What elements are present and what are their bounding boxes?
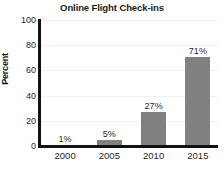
x-tick-label-2005: 2005 bbox=[99, 150, 120, 161]
bar-value-2000: 1% bbox=[59, 134, 72, 144]
y-tick-label: 0 bbox=[2, 141, 36, 151]
y-tick-label: 100 bbox=[2, 15, 36, 25]
y-axis-line bbox=[38, 19, 41, 148]
x-tick-label-2015: 2015 bbox=[187, 150, 208, 161]
y-axis-tick-labels: 0 20 40 60 80 100 bbox=[0, 0, 36, 172]
y-tick-label: 60 bbox=[2, 65, 36, 75]
y-tick-label: 40 bbox=[2, 91, 36, 101]
x-tick-label-2010: 2010 bbox=[143, 150, 164, 161]
plot-area: 1% 5% 27% 71% bbox=[41, 20, 218, 146]
bar-2010[interactable] bbox=[141, 112, 166, 146]
bar-value-2015: 71% bbox=[189, 46, 207, 56]
bar-2015[interactable] bbox=[185, 57, 210, 146]
x-axis-line bbox=[38, 145, 218, 148]
bar-chart: Online Flight Check-ins Percent 0 20 40 … bbox=[0, 0, 224, 172]
bar-value-2010: 27% bbox=[145, 101, 163, 111]
bar-value-2005: 5% bbox=[103, 129, 116, 139]
y-tick-label: 80 bbox=[2, 40, 36, 50]
y-tick-label: 20 bbox=[2, 116, 36, 126]
x-tick-label-2000: 2000 bbox=[55, 150, 76, 161]
gridline bbox=[41, 20, 218, 21]
